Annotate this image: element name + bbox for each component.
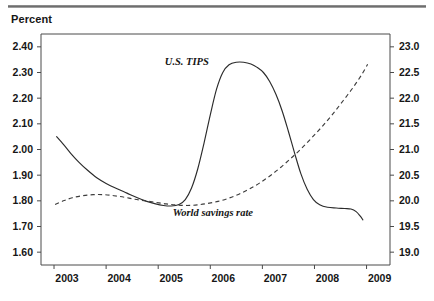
series-lines xyxy=(55,62,368,220)
x-axis-tick-labels: 2003200420052006200720082009 xyxy=(55,272,391,284)
left-tick-label: 1.90 xyxy=(13,169,34,181)
series-annotation-label: World savings rate xyxy=(173,207,254,218)
left-tick-label: 1.80 xyxy=(13,194,34,206)
left-tick-label: 1.70 xyxy=(13,220,34,232)
left-axis-tick-labels: 2.402.302.202.102.001.901.801.701.60 xyxy=(13,40,34,257)
left-axis-ticks xyxy=(37,47,41,252)
right-axis-tick-labels: 23.022.522.021.521.020.520.019.519.0 xyxy=(399,40,420,257)
right-tick-label: 23.0 xyxy=(399,40,420,52)
left-tick-label: 2.30 xyxy=(13,66,34,78)
left-tick-label: 2.00 xyxy=(13,143,34,155)
x-axis-ticks xyxy=(54,265,367,269)
x-tick-label: 2004 xyxy=(107,272,131,284)
plot-border xyxy=(41,34,390,265)
right-tick-label: 19.0 xyxy=(399,246,420,258)
series-annotation-label: U.S. TIPS xyxy=(165,56,209,67)
x-tick-label: 2007 xyxy=(264,272,288,284)
line-chart-plot: 2.402.302.202.102.001.901.801.701.60 23.… xyxy=(0,0,434,301)
left-tick-label: 2.40 xyxy=(13,40,34,52)
series-line-u-s-tips xyxy=(57,62,363,220)
x-tick-label: 2006 xyxy=(212,272,236,284)
left-tick-label: 2.20 xyxy=(13,92,34,104)
right-tick-label: 21.0 xyxy=(399,143,420,155)
chart-figure: Percent 2.402.302.202.102.001.901.801.70… xyxy=(0,0,434,301)
left-tick-label: 2.10 xyxy=(13,117,34,129)
right-tick-label: 19.5 xyxy=(399,220,420,232)
right-tick-label: 22.0 xyxy=(399,92,420,104)
x-tick-label: 2009 xyxy=(368,272,392,284)
right-tick-label: 22.5 xyxy=(399,66,420,78)
x-tick-label: 2003 xyxy=(55,272,79,284)
right-tick-label: 21.5 xyxy=(399,117,420,129)
left-tick-label: 1.60 xyxy=(13,246,34,258)
x-tick-label: 2008 xyxy=(316,272,340,284)
right-tick-label: 20.0 xyxy=(399,194,420,206)
series-line-world-savings-rate xyxy=(55,64,368,205)
plot-frame xyxy=(41,34,390,265)
right-tick-label: 20.5 xyxy=(399,169,420,181)
x-tick-label: 2005 xyxy=(160,272,184,284)
right-axis-ticks xyxy=(390,47,394,252)
